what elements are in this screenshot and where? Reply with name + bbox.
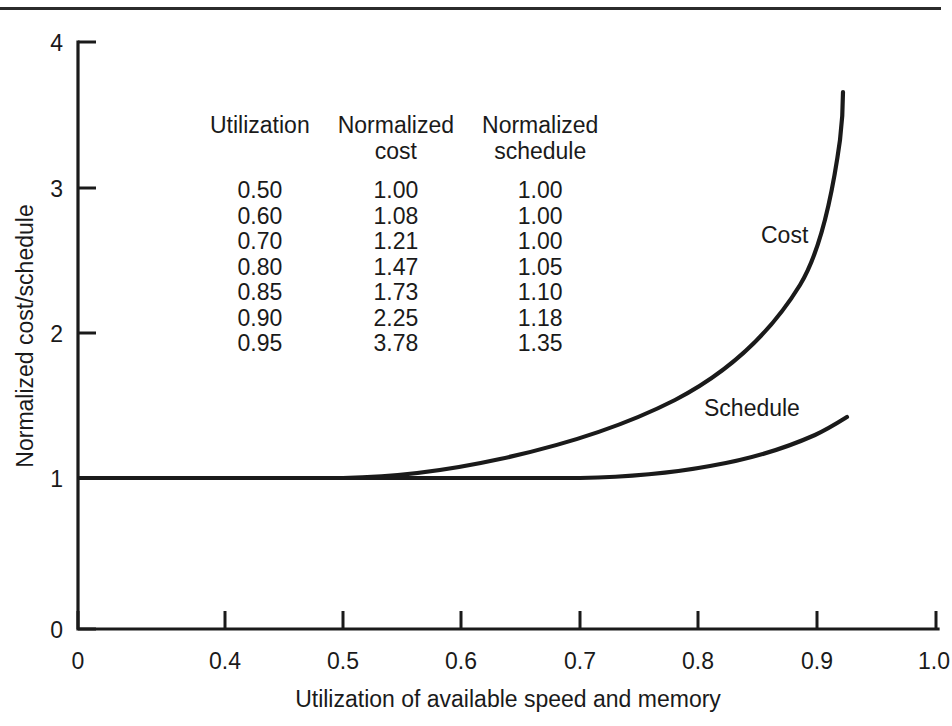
ytick-label-2: 2 — [50, 321, 63, 347]
cell-normalized-schedule: 1.18 — [468, 306, 612, 332]
ytick-label-4: 4 — [50, 30, 63, 56]
xtick-label-1p0: 1.0 — [918, 648, 950, 674]
xtick-label-0p9: 0.9 — [801, 648, 833, 674]
schedule-curve — [80, 417, 847, 478]
column-header-normalized-schedule-line1: Normalized — [482, 112, 598, 138]
y-axis-title: Normalized cost/schedule — [12, 204, 38, 467]
x-axis-ticks — [78, 611, 936, 629]
y-axis-ticks — [78, 42, 96, 629]
cell-normalized-cost: 1.08 — [324, 204, 468, 230]
cell-normalized-cost: 2.25 — [324, 306, 468, 332]
column-header-normalized-schedule: Normalized schedule — [468, 112, 612, 164]
table-row: 0.70 1.21 1.00 — [196, 229, 612, 255]
figure-page: 4 3 2 1 0 0 0.4 0.5 0.6 0.7 0.8 0.9 1.0 … — [0, 0, 952, 726]
cost-curve-label: Cost — [761, 222, 809, 248]
column-header-normalized-cost-line1: Normalized — [338, 112, 454, 138]
cell-utilization: 0.60 — [196, 204, 324, 230]
ytick-label-1: 1 — [50, 466, 63, 492]
cell-utilization: 0.80 — [196, 255, 324, 281]
chart-canvas: 4 3 2 1 0 0 0.4 0.5 0.6 0.7 0.8 0.9 1.0 … — [0, 0, 952, 726]
column-header-utilization: Utilization — [196, 112, 324, 164]
cell-normalized-schedule: 1.35 — [468, 331, 612, 357]
schedule-curve-label: Schedule — [704, 395, 800, 421]
cell-normalized-schedule: 1.05 — [468, 255, 612, 281]
cell-utilization: 0.70 — [196, 229, 324, 255]
xtick-label-0: 0 — [72, 648, 85, 674]
cell-normalized-schedule: 1.00 — [468, 229, 612, 255]
xtick-label-0p5: 0.5 — [327, 648, 359, 674]
column-header-normalized-cost-line2: cost — [338, 138, 454, 164]
xtick-label-0p7: 0.7 — [564, 648, 596, 674]
table-row: 0.60 1.08 1.00 — [196, 204, 612, 230]
x-axis-title: Utilization of available speed and memor… — [295, 686, 721, 712]
cell-normalized-schedule: 1.00 — [468, 164, 612, 204]
cell-normalized-cost: 1.21 — [324, 229, 468, 255]
table-header-row: Utilization Normalized cost Normalized s… — [196, 112, 612, 164]
cell-utilization: 0.85 — [196, 280, 324, 306]
cell-utilization: 0.50 — [196, 164, 324, 204]
cell-normalized-cost: 1.47 — [324, 255, 468, 281]
table-row: 0.95 3.78 1.35 — [196, 331, 612, 357]
inset-data-table: Utilization Normalized cost Normalized s… — [196, 112, 612, 357]
column-header-normalized-schedule-line2: schedule — [482, 138, 598, 164]
column-header-utilization-line1: Utilization — [210, 112, 310, 138]
cell-normalized-schedule: 1.00 — [468, 204, 612, 230]
cell-normalized-schedule: 1.10 — [468, 280, 612, 306]
column-header-normalized-cost: Normalized cost — [324, 112, 468, 164]
xtick-label-0p6: 0.6 — [445, 648, 477, 674]
xtick-label-0p8: 0.8 — [682, 648, 714, 674]
table-row: 0.85 1.73 1.10 — [196, 280, 612, 306]
table-row: 0.90 2.25 1.18 — [196, 306, 612, 332]
ytick-label-3: 3 — [50, 176, 63, 202]
table-row: 0.50 1.00 1.00 — [196, 164, 612, 204]
cell-utilization: 0.95 — [196, 331, 324, 357]
cell-utilization: 0.90 — [196, 306, 324, 332]
ytick-label-0: 0 — [50, 617, 63, 643]
cell-normalized-cost: 3.78 — [324, 331, 468, 357]
table-row: 0.80 1.47 1.05 — [196, 255, 612, 281]
cell-normalized-cost: 1.00 — [324, 164, 468, 204]
cell-normalized-cost: 1.73 — [324, 280, 468, 306]
xtick-label-0p4: 0.4 — [209, 648, 241, 674]
